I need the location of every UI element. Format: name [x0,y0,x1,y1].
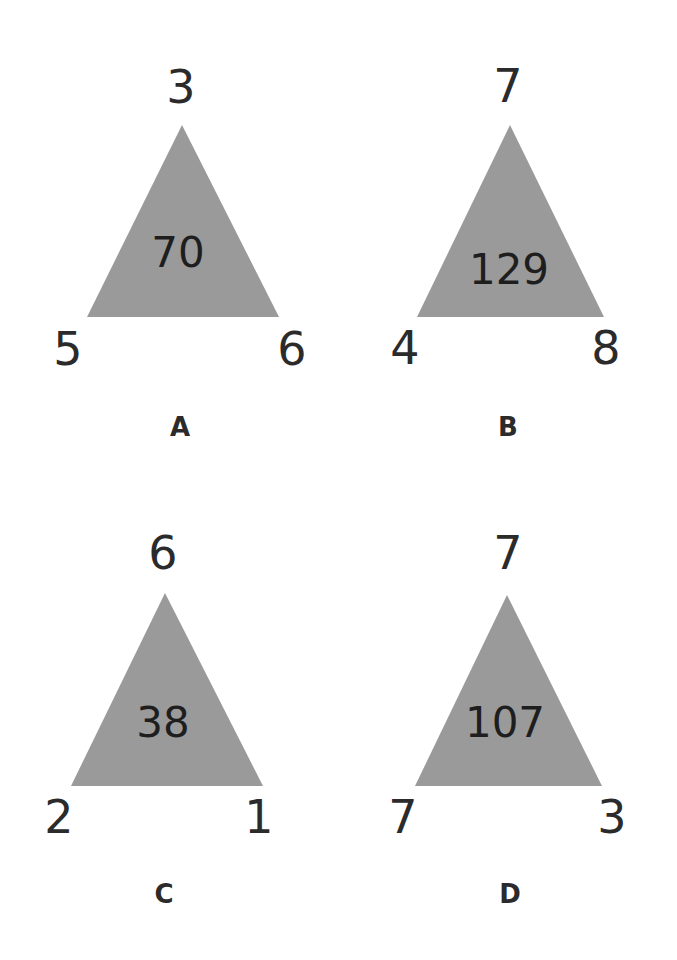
triangle-a-right-number: 6 [277,322,306,376]
triangle-group-a: 3 5 6 70 A [53,60,306,442]
triangle-d [415,595,602,786]
puzzle-diagram: 3 5 6 70 A 7 4 8 129 B 6 2 1 38 C 7 7 3 … [0,0,677,960]
triangle-d-center-number: 107 [465,698,545,747]
triangle-a-label: A [170,412,190,442]
triangle-a-top-number: 3 [166,60,195,114]
triangle-c-label: C [154,879,173,909]
triangle-b-left-number: 4 [390,321,419,375]
triangle-b-label: B [498,412,518,442]
triangle-b-center-number: 129 [469,245,549,294]
triangle-c [71,593,263,786]
triangle-c-left-number: 2 [44,790,73,844]
triangle-d-top-number: 7 [493,526,522,580]
triangle-c-center-number: 38 [136,698,189,747]
triangle-a [87,125,279,317]
triangle-b-top-number: 7 [493,59,522,113]
triangle-group-b: 7 4 8 129 B [390,59,620,442]
triangle-group-d: 7 7 3 107 D [388,526,626,909]
triangle-a-center-number: 70 [151,228,204,277]
triangle-a-left-number: 5 [53,322,82,376]
triangle-d-label: D [499,879,521,909]
triangle-d-left-number: 7 [388,790,417,844]
triangle-group-c: 6 2 1 38 C [44,526,273,909]
triangle-b-right-number: 8 [591,321,620,375]
triangle-c-right-number: 1 [244,790,273,844]
triangle-c-top-number: 6 [148,526,177,580]
triangle-d-right-number: 3 [597,790,626,844]
